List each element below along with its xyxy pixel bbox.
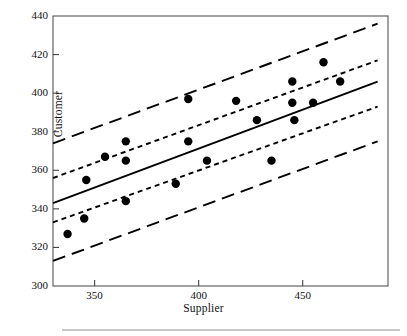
data-point (290, 116, 298, 124)
data-point (101, 153, 109, 161)
x-tick-label: 450 (283, 289, 323, 301)
data-point (172, 180, 180, 188)
regression-fit-line (53, 82, 378, 204)
data-point (63, 230, 71, 238)
data-point (288, 99, 296, 107)
y-tick-label: 400 (14, 86, 48, 98)
data-point-markers (63, 58, 344, 238)
data-point (80, 214, 88, 222)
data-point (336, 77, 344, 85)
y-tick-label: 420 (14, 48, 48, 60)
data-point (288, 77, 296, 85)
data-point (253, 116, 261, 124)
regression-line (53, 82, 378, 204)
x-tick-label: 350 (75, 289, 115, 301)
data-point (319, 58, 327, 66)
x-tick-label: 400 (179, 289, 219, 301)
prediction-band-upper (53, 24, 378, 144)
data-point (184, 137, 192, 145)
data-point (122, 137, 130, 145)
scatter-plot-canvas (0, 0, 407, 336)
figure-container: 300320340360380400420440 350400450 Custo… (0, 0, 407, 336)
data-point (232, 97, 240, 105)
y-tick-label: 300 (14, 279, 48, 291)
confidence-band-upper (53, 60, 378, 178)
data-point (309, 99, 317, 107)
data-point (184, 95, 192, 103)
data-point (267, 156, 275, 164)
plot-border (53, 16, 388, 286)
data-point (203, 156, 211, 164)
x-axis-title: Supplier (0, 302, 407, 314)
y-tick-label: 320 (14, 240, 48, 252)
confidence-band-lower (53, 107, 378, 223)
plot-frame (53, 16, 388, 286)
data-point (82, 176, 90, 184)
y-tick-label: 360 (14, 163, 48, 175)
x-axis-tick-marks (95, 280, 303, 286)
y-tick-label: 380 (14, 125, 48, 137)
y-tick-label: 340 (14, 202, 48, 214)
y-tick-label: 440 (14, 9, 48, 21)
data-point (122, 156, 130, 164)
data-point (122, 197, 130, 205)
y-axis-tick-marks (53, 55, 59, 248)
